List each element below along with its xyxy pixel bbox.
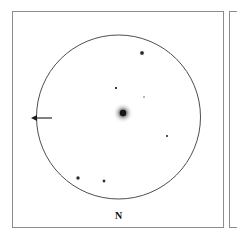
- west-direction-arrow: [31, 115, 52, 121]
- field-star: [115, 87, 118, 90]
- central-fuzzy-object: [113, 103, 134, 124]
- finder-chart-figure: N: [0, 0, 237, 239]
- north-orientation-label: N: [110, 211, 127, 221]
- field-star: [166, 135, 168, 137]
- field-star: [76, 176, 80, 180]
- arrow-head: [31, 115, 37, 121]
- field-star: [143, 96, 145, 98]
- central-object-core: [120, 110, 126, 116]
- sky-field-drawing: [0, 0, 237, 239]
- field-star: [102, 179, 106, 183]
- field-star: [140, 51, 145, 56]
